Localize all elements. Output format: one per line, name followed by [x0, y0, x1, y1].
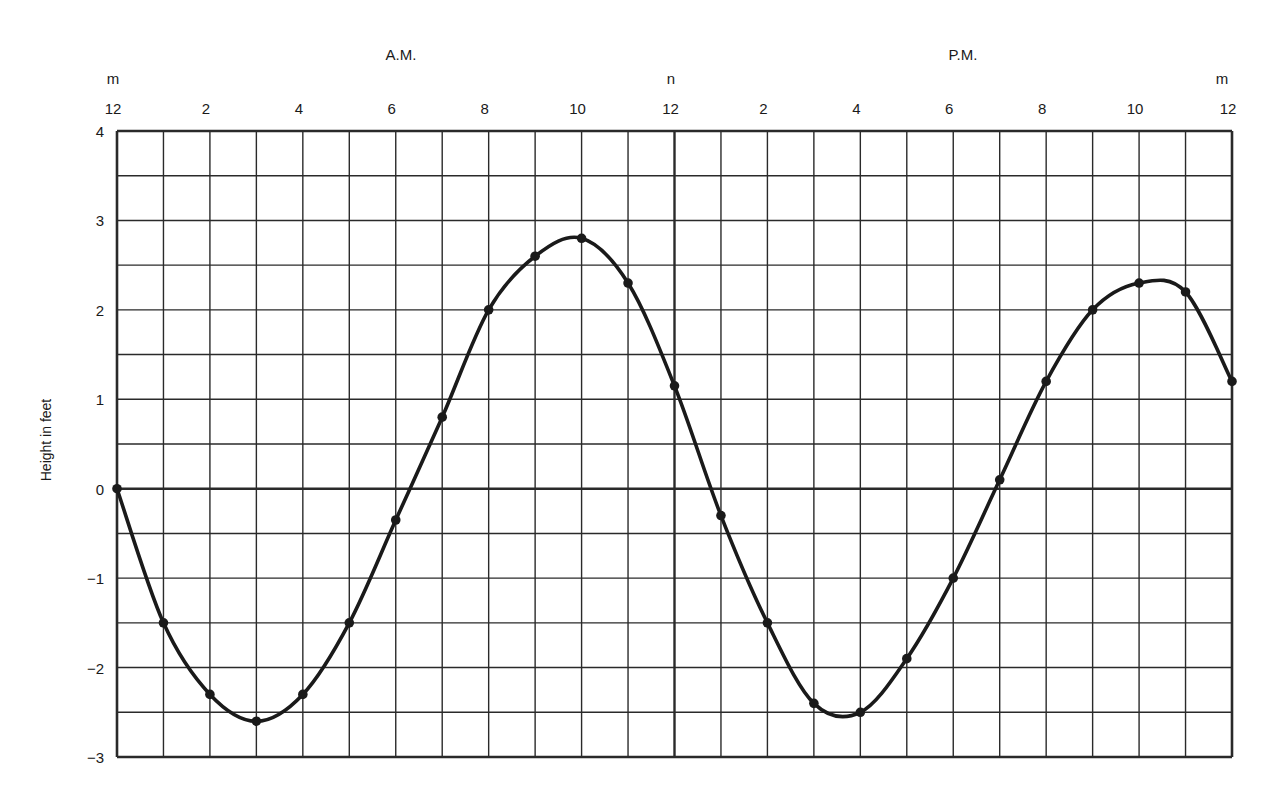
- data-point-marker: [902, 654, 912, 664]
- data-point-marker: [205, 690, 215, 700]
- data-point-marker: [252, 716, 262, 726]
- data-point-marker: [437, 412, 447, 422]
- x-tick-label: 2: [202, 100, 210, 117]
- noon-marker: n: [667, 70, 675, 87]
- y-tick-label: 0: [64, 480, 104, 497]
- data-point-marker: [623, 278, 633, 288]
- x-tick-label: 4: [295, 100, 303, 117]
- data-point-marker: [159, 618, 169, 628]
- x-tick-label: 10: [569, 100, 586, 117]
- y-axis-title: Height in feet: [38, 399, 54, 482]
- y-tick-label: −1: [64, 570, 104, 587]
- x-tick-label: 8: [480, 100, 488, 117]
- data-point-marker: [484, 305, 494, 315]
- data-point-marker: [995, 475, 1005, 485]
- x-tick-label: 6: [945, 100, 953, 117]
- data-point-marker: [530, 251, 540, 261]
- y-tick-label: 4: [64, 123, 104, 140]
- midnight-marker-end: m: [1216, 70, 1229, 87]
- data-point-marker: [298, 690, 308, 700]
- x-tick-label: 8: [1038, 100, 1046, 117]
- x-tick-label: 6: [388, 100, 396, 117]
- midnight-marker-start: m: [107, 70, 120, 87]
- data-point-marker: [948, 573, 958, 583]
- tide-chart: [0, 0, 1275, 812]
- period-label-am: A.M.: [386, 46, 417, 63]
- x-tick-label: 12: [662, 100, 679, 117]
- x-tick-label: 4: [852, 100, 860, 117]
- data-point-marker: [763, 618, 773, 628]
- y-tick-label: 1: [64, 391, 104, 408]
- y-tick-label: 3: [64, 212, 104, 229]
- data-point-marker: [577, 234, 587, 244]
- data-point-marker: [809, 699, 819, 709]
- data-point-marker: [1041, 377, 1051, 387]
- data-point-marker: [670, 381, 680, 391]
- period-label-pm: P.M.: [949, 46, 978, 63]
- data-point-marker: [391, 515, 401, 525]
- x-tick-label: 2: [759, 100, 767, 117]
- data-point-marker: [716, 511, 726, 521]
- data-point-marker: [344, 618, 354, 628]
- y-tick-label: 2: [64, 301, 104, 318]
- x-tick-label: 12: [105, 100, 122, 117]
- x-tick-label: 10: [1127, 100, 1144, 117]
- y-tick-label: −2: [64, 659, 104, 676]
- data-point-marker: [1134, 278, 1144, 288]
- grid-lines: [117, 131, 1232, 757]
- y-tick-label: −3: [64, 749, 104, 766]
- data-point-marker: [1088, 305, 1098, 315]
- data-point-marker: [856, 707, 866, 717]
- data-point-marker: [1227, 377, 1237, 387]
- data-point-marker: [1181, 287, 1191, 297]
- data-point-marker: [112, 484, 122, 494]
- x-tick-label: 12: [1220, 100, 1237, 117]
